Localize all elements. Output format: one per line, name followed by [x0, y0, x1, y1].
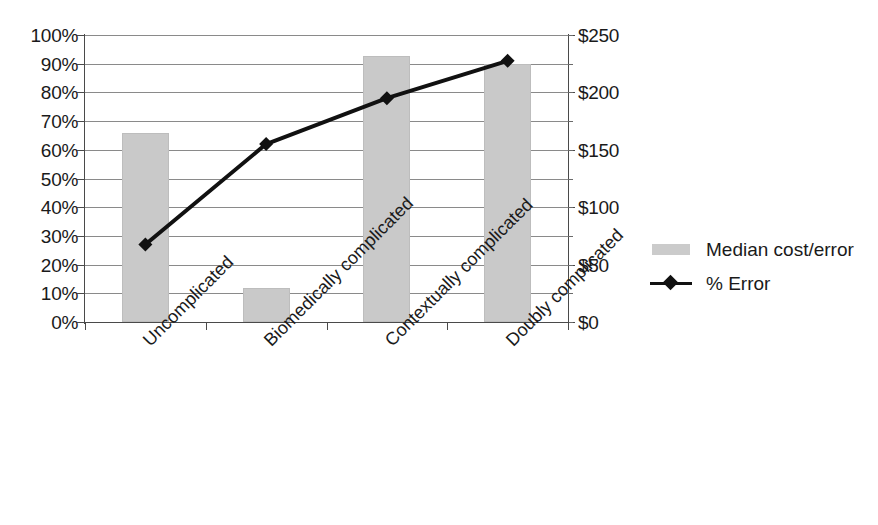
- line-marker-swatch-icon: [648, 277, 694, 289]
- bar-swatch-icon: [648, 244, 694, 255]
- legend-label-median-cost-error: Median cost/error: [706, 240, 854, 259]
- legend-label-percent-error: % Error: [706, 274, 770, 293]
- legend-item-median-cost-error: Median cost/error: [648, 232, 872, 266]
- category-label-0: Uncomplicated: [139, 252, 237, 350]
- chart-legend: Median cost/error % Error: [648, 232, 872, 300]
- chart-container: 0%10%20%30%40%50%60%70%80%90%100% $0$50$…: [0, 0, 878, 525]
- legend-item-percent-error: % Error: [648, 266, 872, 300]
- category-label-3: Doubly complicated: [502, 225, 627, 350]
